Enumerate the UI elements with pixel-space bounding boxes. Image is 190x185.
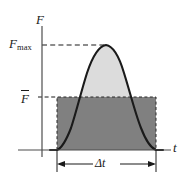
force-time-figure: F t Fmax F Δt <box>0 0 190 185</box>
delta-t-arrowhead-left-icon <box>57 161 65 167</box>
y-axis-label: F <box>36 13 44 26</box>
f-max-symbol: F <box>9 36 17 51</box>
f-average-symbol: F <box>21 90 29 105</box>
delta-t-label: Δt <box>95 157 105 169</box>
x-axis-label: t <box>173 141 177 154</box>
f-max-subscript: max <box>17 42 32 52</box>
f-max-label: Fmax <box>9 37 32 52</box>
delta-t-arrowhead-right-icon <box>148 161 156 167</box>
f-average-label: F <box>21 90 29 105</box>
